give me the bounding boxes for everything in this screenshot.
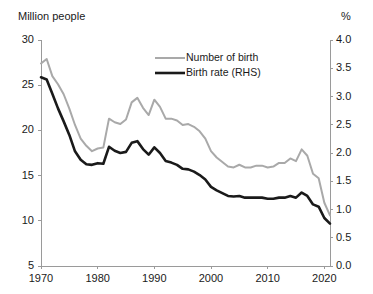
series-line-2 <box>41 77 330 223</box>
chart-container: Million people % 510152025300.00.51.01.5… <box>0 0 373 294</box>
x-axis-tick-label: 1980 <box>78 272 118 284</box>
legend-label-2: Birth rate (RHS) <box>186 66 261 78</box>
right-axis-tick-label: 2.0 <box>336 146 366 158</box>
x-axis-tick-label: 2000 <box>191 272 231 284</box>
x-axis-tick-label: 1990 <box>134 272 174 284</box>
left-axis-tick-label: 15 <box>8 169 34 181</box>
right-axis-tick-label: 3.5 <box>336 61 366 73</box>
series-line-1 <box>41 59 330 215</box>
x-axis-tick-label: 1970 <box>21 272 61 284</box>
right-axis-tick-label: 1.5 <box>336 174 366 186</box>
left-axis-tick-label: 10 <box>8 214 34 226</box>
right-axis-tick-label: 3.0 <box>336 90 366 102</box>
left-axis-tick-label: 5 <box>8 259 34 271</box>
left-axis-tick-label: 20 <box>8 123 34 135</box>
left-axis-tick-label: 25 <box>8 78 34 90</box>
right-axis-tick-label: 0.5 <box>336 231 366 243</box>
right-axis-tick-label: 2.5 <box>336 118 366 130</box>
right-axis-tick-label: 0.0 <box>336 259 366 271</box>
legend-label-1: Number of birth <box>186 51 258 63</box>
right-axis-tick-label: 1.0 <box>336 203 366 215</box>
x-axis-tick-label: 2020 <box>304 272 344 284</box>
x-axis-tick-label: 2010 <box>248 272 288 284</box>
right-axis-tick-label: 4.0 <box>336 33 366 45</box>
left-axis-tick-label: 30 <box>8 33 34 45</box>
plot-area <box>0 0 373 294</box>
